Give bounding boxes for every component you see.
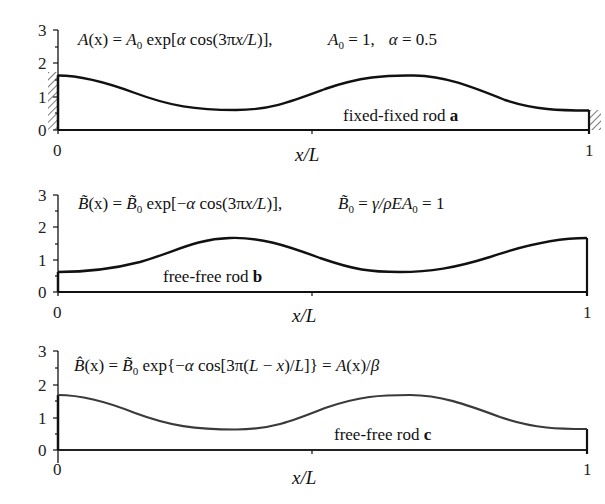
x-tick-label-1: 1 bbox=[583, 303, 592, 322]
equation-b: B̃(x) = B̃0 exp[−α cos(3πx/L)], bbox=[78, 194, 282, 215]
y-tick-label-3: 3 bbox=[38, 342, 47, 361]
right-fixed-support-hatch bbox=[589, 110, 601, 130]
y-tick-label-1: 1 bbox=[38, 251, 47, 270]
profile-curve-a bbox=[58, 75, 589, 110]
figure: 3 2 1 0 A(x) = A0 exp[α cos(3πx/L)], A0 … bbox=[0, 0, 605, 504]
x-tick-label-0: 0 bbox=[53, 141, 62, 160]
panel-c: 3 2 1 0 B̂(x) = B̃0 exp{−α cos[3π(L − x)… bbox=[38, 342, 592, 488]
panel-b: 3 2 1 0 B̃(x) = B̃0 exp[−α cos(3πx/L)], … bbox=[38, 186, 592, 326]
rod-label-c: free-free rod c bbox=[334, 425, 432, 444]
y-tick-label-2: 2 bbox=[38, 218, 47, 237]
x-tick-label-0: 0 bbox=[53, 303, 62, 322]
rod-label-b: free-free rod b bbox=[163, 267, 262, 286]
equation-a: A(x) = A0 exp[α cos(3πx/L)], bbox=[77, 30, 273, 51]
x-tick-label-1: 1 bbox=[583, 460, 592, 479]
y-tick-label-3: 3 bbox=[38, 186, 47, 205]
equation-c: B̂(x) = B̃0 exp{−α cos[3π(L − x)/L]} = A… bbox=[74, 356, 380, 377]
y-tick-label-0: 0 bbox=[38, 121, 47, 140]
y-tick-label-3: 3 bbox=[38, 21, 47, 40]
x-axis-title: x/L bbox=[294, 144, 319, 165]
y-tick-label-1: 1 bbox=[38, 88, 47, 107]
rod-label-a: fixed-fixed rod a bbox=[343, 106, 459, 125]
x-tick-label-1: 1 bbox=[585, 141, 594, 160]
profile-curve-c bbox=[58, 395, 587, 430]
x-axis-title: x/L bbox=[291, 305, 316, 326]
parameters-a: A0 = 1,α = 0.5 bbox=[327, 30, 437, 51]
panel-a: 3 2 1 0 A(x) = A0 exp[α cos(3πx/L)], A0 … bbox=[38, 21, 601, 165]
left-fixed-support-hatch bbox=[48, 72, 58, 130]
y-tick-label-0: 0 bbox=[38, 441, 47, 460]
y-tick-label-1: 1 bbox=[38, 409, 47, 428]
x-tick-label-0: 0 bbox=[53, 460, 62, 479]
y-tick-label-0: 0 bbox=[38, 283, 47, 302]
y-tick-label-2: 2 bbox=[38, 54, 47, 73]
profile-curve-b bbox=[58, 238, 587, 272]
parameters-b: B̃0 = γ/ρEA0 = 1 bbox=[338, 194, 444, 215]
y-tick-label-2: 2 bbox=[38, 376, 47, 395]
x-axis-title: x/L bbox=[291, 467, 316, 488]
